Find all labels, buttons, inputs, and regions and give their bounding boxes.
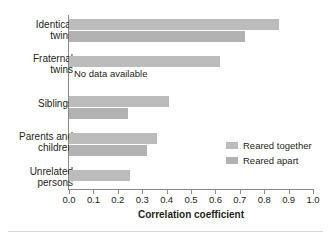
- x-axis-tick-label: 1.0: [296, 194, 330, 205]
- bar-fraternal-twins-reared-together: [69, 56, 220, 67]
- category-label-parents-and-children: Parents and children: [0, 132, 73, 153]
- footer-divider: [8, 231, 323, 232]
- bar-siblings-reared-together: [69, 96, 169, 107]
- category-label-fraternal-twins: Fraternal twins: [0, 54, 73, 75]
- chart-legend: Reared together Reared apart: [226, 139, 312, 169]
- category-label-line1: Parents and: [0, 132, 73, 143]
- category-label-line1: Identical: [0, 20, 73, 31]
- legend-swatch-icon-reared-together: [226, 142, 238, 149]
- no-data-annotation: No data available: [74, 68, 147, 79]
- bar-parents-and-children-reared-apart: [69, 145, 147, 156]
- category-label-identical-twins: Identical twins: [0, 20, 73, 41]
- x-axis-title: Correlation coefficient: [69, 209, 313, 220]
- bar-siblings-reared-apart: [69, 108, 128, 119]
- category-label-line2: persons: [0, 178, 73, 189]
- correlation-coefficient-bar-chart: Identical twins Fraternal twins Siblings…: [0, 0, 331, 239]
- category-label-line1: Fraternal: [0, 54, 73, 65]
- category-label-line2: children: [0, 143, 73, 154]
- category-label-unrelated-persons: Unrelated persons: [0, 167, 73, 188]
- legend-label-reared-apart: Reared apart: [243, 155, 298, 166]
- bar-identical-twins-reared-apart: [69, 31, 245, 42]
- bar-unrelated-persons-reared-together: [69, 170, 130, 181]
- legend-item-reared-together: Reared together: [226, 139, 312, 152]
- legend-item-reared-apart: Reared apart: [226, 154, 312, 167]
- category-label-line1: Siblings: [0, 99, 73, 110]
- legend-swatch-icon-reared-apart: [226, 157, 238, 164]
- legend-label-reared-together: Reared together: [243, 140, 312, 151]
- bar-parents-and-children-reared-together: [69, 133, 157, 144]
- bar-identical-twins-reared-together: [69, 19, 279, 30]
- category-label-line2: twins: [0, 65, 73, 76]
- category-label-line2: twins: [0, 31, 73, 42]
- category-label-line1: Unrelated: [0, 167, 73, 178]
- category-label-siblings: Siblings: [0, 99, 73, 110]
